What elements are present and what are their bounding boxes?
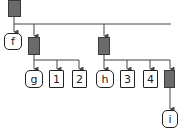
leaf-node-g: g [25,70,43,88]
node-label: 3 [124,73,131,86]
node-label: 2 [76,73,83,86]
node-label: g [31,73,38,86]
internal-node-4 [164,70,175,88]
leaf-node-i: i [162,110,178,128]
node-label: f [11,35,15,48]
node-label: h [102,73,109,86]
internal-node-3 [98,37,110,55]
leaf-node-3: 3 [120,70,135,88]
leaf-node-h: h [96,70,114,88]
node-label: 1 [53,73,60,86]
leaf-node-f: f [4,33,22,50]
tree-edges [0,0,180,136]
leaf-node-2: 2 [72,70,87,88]
node-label: i [168,113,171,126]
internal-node-2 [28,37,40,55]
leaf-node-1: 1 [49,70,64,88]
node-label: 4 [147,73,154,86]
root-internal-node [8,0,21,17]
leaf-node-4: 4 [143,70,158,88]
